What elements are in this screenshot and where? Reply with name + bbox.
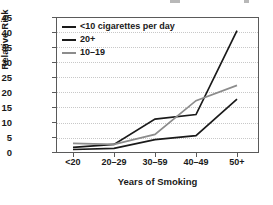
legend-item: 20+ [62, 33, 175, 46]
legend-item: <10 cigarettes per day [62, 20, 175, 33]
series-line-10-19 [73, 85, 237, 144]
legend-swatch-icon [62, 52, 76, 54]
legend-label: <10 cigarettes per day [80, 22, 175, 31]
legend: <10 cigarettes per day 20+ 10–19 [62, 20, 175, 59]
legend-item: 10–19 [62, 46, 175, 59]
relative-risk-line-chart: Relative Risk Years of Smoking 45 40 35 … [0, 0, 273, 205]
legend-swatch-icon [62, 26, 76, 28]
series-line-under-10-a-day [73, 99, 237, 149]
legend-label: 10–19 [80, 48, 105, 57]
legend-label: 20+ [80, 35, 95, 44]
legend-swatch-icon [62, 39, 76, 41]
